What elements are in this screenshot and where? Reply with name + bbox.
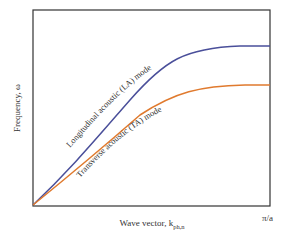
- x-axis-label: Wave vector, kph,n: [119, 218, 184, 230]
- ta-label: Transverse acoustic (TA) mode: [74, 104, 163, 180]
- dispersion-chart: Longitudinal acoustic (LA) mode Transver…: [0, 0, 291, 242]
- x-axis-label-main: Wave vector, k: [119, 218, 173, 228]
- y-axis-label: Frequency, ω: [12, 84, 22, 132]
- x-tick-pi-over-a: π/a: [262, 213, 273, 223]
- x-axis-label-sub: ph,n: [173, 223, 184, 230]
- la-label: Longitudinal acoustic (LA) mode: [64, 62, 153, 149]
